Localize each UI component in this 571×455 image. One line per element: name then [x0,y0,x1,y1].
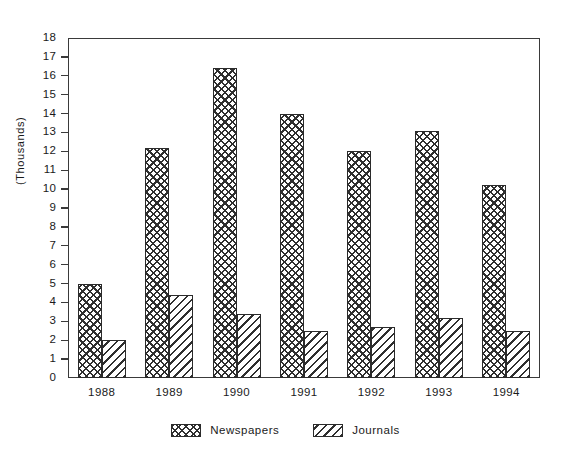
bar-journals-1992 [371,327,395,378]
y-axis-tick-mark [61,245,68,246]
y-axis-tick-label: 6 [49,257,56,272]
bar-newspapers-1992 [347,151,371,378]
y-axis-tick-mark [61,302,68,303]
y-axis-tick-label: 17 [43,49,56,64]
y-axis-tick-label: 8 [49,219,56,234]
y-axis-tick-label: 2 [49,332,56,347]
y-axis-tick-mark [61,358,68,359]
bar-newspapers-1990 [213,68,237,378]
x-axis-tick-label: 1991 [290,386,317,398]
bar-newspapers-1991 [280,114,304,378]
y-axis-tick-mark [61,75,68,76]
y-axis-tick-label: 10 [43,181,56,196]
x-axis-tick-label: 1992 [358,386,385,398]
legend-label: Newspapers [210,424,279,436]
y-axis-tick-mark [61,151,68,152]
x-axis-tick-label: 1989 [156,386,183,398]
bar-newspapers-1994 [482,185,506,378]
bar-newspapers-1993 [415,131,439,378]
legend-entry-newspapers[interactable]: Newspapers [171,424,279,437]
bar-chart-figure: 0123456789101112131415161718 (Thousands)… [0,0,571,455]
x-axis-tick-label: 1993 [425,386,452,398]
legend-entry-journals[interactable]: Journals [313,424,399,437]
y-axis-tick-mark [61,226,68,227]
y-axis-tick-label: 3 [49,313,56,328]
y-axis-tick-label: 13 [43,124,56,139]
y-axis-tick-mark [61,321,68,322]
bar-journals-1991 [304,331,328,378]
x-axis: 1988198919901991199219931994 [68,386,540,406]
bar-journals-1988 [102,340,126,378]
y-axis-tick-mark [61,56,68,57]
y-axis-tick-label: 7 [49,238,56,253]
y-axis-tick-mark [61,188,68,189]
chart-legend: NewspapersJournals [0,418,571,442]
y-axis-tick-label: 14 [43,106,56,121]
bar-journals-1989 [169,295,193,378]
y-axis-tick-label: 1 [49,351,56,366]
y-axis-tick-mark [61,113,68,114]
y-axis: 0123456789101112131415161718 [0,0,68,455]
y-axis-tick-mark [61,207,68,208]
y-axis-tick-label: 5 [49,276,56,291]
y-axis-tick-label: 11 [44,162,56,177]
y-axis-tick-label: 9 [49,200,56,215]
bar-journals-1994 [506,331,530,378]
legend-swatch-journals-icon [313,424,343,437]
x-axis-tick-label: 1988 [88,386,115,398]
legend-label: Journals [352,424,399,436]
legend-swatch-newspapers-icon [171,424,201,437]
x-axis-tick-label: 1990 [223,386,250,398]
y-axis-tick-label: 4 [49,294,56,309]
y-axis-title: (Thousands) [14,117,26,185]
y-axis-tick-mark [61,94,68,95]
y-axis-tick-mark [61,340,68,341]
y-axis-tick-mark [61,264,68,265]
y-axis-tick-label: 12 [43,143,56,158]
bar-newspapers-1988 [78,284,102,378]
x-axis-tick-label: 1994 [493,386,520,398]
bar-journals-1990 [237,314,261,378]
y-axis-tick-label: 16 [43,68,56,83]
y-axis-tick-mark [61,170,68,171]
y-axis-tick-label: 15 [43,87,56,102]
bar-journals-1993 [439,318,463,378]
y-axis-tick-label: 0 [49,370,56,385]
y-axis-tick-label: 18 [43,30,56,45]
bars-layer [68,38,540,378]
bar-newspapers-1989 [145,148,169,378]
y-axis-tick-mark [61,132,68,133]
y-axis-tick-mark [61,283,68,284]
